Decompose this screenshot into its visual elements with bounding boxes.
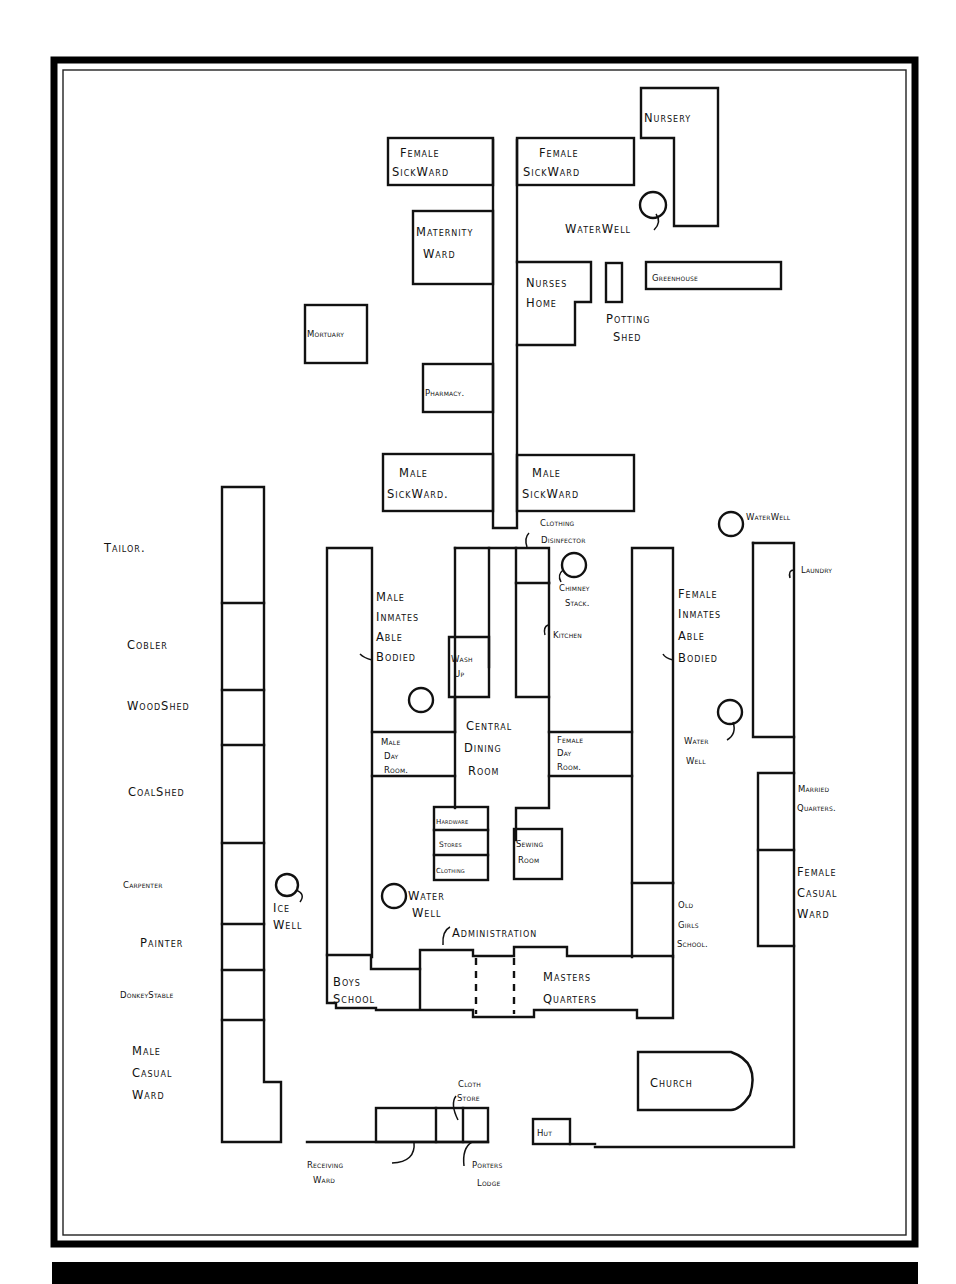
receiving-block (376, 1108, 488, 1142)
svg-text:Ward: Ward (423, 247, 456, 261)
label-married-quarters: Married (798, 784, 830, 794)
labels: Female SickWard Female SickWard Nursery … (103, 111, 837, 1188)
label-cobler: Cobler (127, 638, 168, 652)
label-nurses-home: Nurses (526, 276, 567, 290)
well-icon (409, 688, 433, 712)
main-block (327, 533, 673, 1018)
label-water-well-east2: Water (684, 736, 709, 746)
label-mortuary: Mortuary (307, 329, 344, 339)
label-female-casual-ward: Female (797, 865, 837, 879)
svg-text:Quarters: Quarters (543, 992, 597, 1006)
label-stores: Stores (439, 840, 462, 849)
water-well-east-icon (719, 512, 743, 536)
svg-text:Ward: Ward (132, 1088, 165, 1102)
label-male-inmates: Male (376, 590, 405, 604)
label-sewing-room: Sewing (516, 839, 543, 849)
svg-text:Room.: Room. (557, 762, 581, 772)
west-range (222, 487, 302, 1142)
svg-text:Day: Day (557, 748, 572, 758)
svg-text:Able: Able (376, 630, 403, 644)
label-donkey-stable: DonkeyStable (120, 990, 174, 1000)
svg-text:Casual: Casual (797, 886, 837, 900)
svg-text:Home: Home (526, 296, 557, 310)
label-female-sick-ward-left: Female (400, 146, 440, 160)
svg-text:Girls: Girls (678, 920, 699, 930)
label-wood-shed: WoodShed (127, 699, 190, 713)
male-sick-ward-right (517, 455, 634, 511)
label-male-sick-ward-right: Male (532, 466, 561, 480)
label-wash-up: Wash (451, 654, 473, 664)
svg-text:Able: Able (678, 629, 705, 643)
label-church: Church (650, 1076, 693, 1090)
svg-text:Bodied: Bodied (678, 651, 718, 665)
potting-shed (606, 263, 622, 302)
label-male-casual-ward: Male (132, 1044, 161, 1058)
water-well-icon (640, 192, 666, 218)
label-clothing: Clothing (436, 867, 465, 875)
svg-text:Up: Up (454, 669, 464, 679)
label-hardware: Hardware (436, 818, 468, 826)
svg-text:Room.: Room. (384, 765, 408, 775)
svg-text:SickWard: SickWard (392, 165, 449, 179)
svg-text:School.: School. (677, 939, 708, 949)
svg-text:Disinfector: Disinfector (541, 535, 586, 545)
svg-text:SickWard.: SickWard. (387, 487, 449, 501)
label-old-girls-school: Old (678, 900, 693, 910)
sewing-room (514, 829, 562, 879)
label-potting-shed: Potting (606, 312, 650, 326)
svg-text:Inmates: Inmates (376, 610, 419, 624)
water-well-court-icon (382, 884, 406, 908)
label-water-well-east: WaterWell (746, 512, 791, 522)
svg-text:Stack.: Stack. (565, 598, 590, 608)
svg-text:Bodied: Bodied (376, 650, 416, 664)
label-female-inmates: Female (678, 587, 718, 601)
svg-text:Day: Day (384, 751, 399, 761)
label-pharmacy: Pharmacy. (425, 388, 464, 398)
label-nursery: Nursery (644, 111, 691, 125)
label-porters-lodge: Porters (472, 1160, 502, 1170)
svg-text:SickWard: SickWard (522, 487, 579, 501)
svg-text:Well: Well (412, 906, 441, 920)
svg-text:Casual: Casual (132, 1066, 172, 1080)
south-area (307, 1052, 753, 1166)
workhouse-plan: Female SickWard Female SickWard Nursery … (0, 0, 956, 1284)
label-cloth-store: Cloth (458, 1079, 481, 1089)
label-maternity-ward: Maternity (416, 225, 473, 239)
label-hut: Hut (537, 1128, 552, 1138)
label-tailor: Tailor. (103, 541, 146, 555)
label-masters-quarters: Masters (543, 970, 591, 984)
label-water-well-court: Water (408, 889, 445, 903)
label-carpenter: Carpenter (123, 880, 163, 890)
label-coal-shed: CoalShed (128, 785, 185, 799)
frame (52, 60, 918, 1284)
label-ice-well: Ice (273, 901, 290, 915)
svg-text:Store: Store (457, 1093, 480, 1103)
chimney-stack-icon (562, 553, 586, 577)
bottom-bar (52, 1262, 918, 1284)
label-male-sick-ward-left: Male (399, 466, 428, 480)
label-male-day-room: Male (381, 737, 400, 747)
svg-text:Lodge: Lodge (477, 1178, 501, 1188)
svg-text:Room: Room (468, 764, 500, 778)
label-painter: Painter (140, 936, 183, 950)
svg-text:Ward: Ward (313, 1175, 335, 1185)
label-female-sick-ward-right: Female (539, 146, 579, 160)
svg-text:SickWard: SickWard (523, 165, 580, 179)
label-female-day-room: Female (557, 735, 583, 745)
svg-text:Room: Room (518, 855, 539, 865)
nursery (641, 88, 718, 226)
svg-text:Well: Well (686, 756, 706, 766)
label-laundry: Laundry (801, 565, 832, 575)
label-water-well-north: WaterWell (565, 222, 631, 236)
label-administration: Administration (452, 926, 537, 940)
svg-text:Shed: Shed (613, 330, 642, 344)
svg-text:Dining: Dining (464, 741, 502, 755)
label-clothing-disinfector: Clothing (540, 518, 575, 528)
male-sick-ward-left (383, 454, 493, 511)
svg-text:Quarters.: Quarters. (797, 803, 836, 813)
label-greenhouse: Greenhouse (652, 273, 698, 283)
label-receiving-ward: Receiving (307, 1160, 343, 1170)
label-chimney-stack: Chimney (559, 583, 590, 593)
label-kitchen: Kitchen (553, 630, 582, 640)
svg-text:Inmates: Inmates (678, 607, 721, 621)
